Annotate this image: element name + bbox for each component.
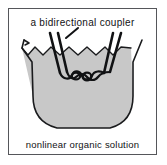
figure-container: a bidirectional coupler nonlinear organi… (0, 0, 167, 165)
page-title: a bidirectional coupler (8, 17, 157, 28)
leader-line (66, 28, 78, 38)
solution-label: nonlinear organic solution (8, 139, 157, 150)
